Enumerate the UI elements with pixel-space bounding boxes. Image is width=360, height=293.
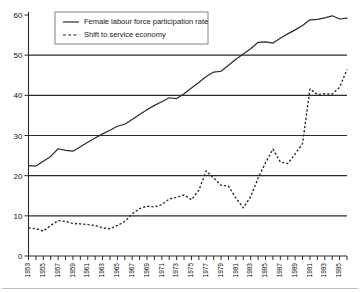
x-tick-label-1959: 1959 — [69, 263, 76, 278]
axes — [25, 12, 348, 256]
x-tick-label-1977: 1977 — [202, 263, 209, 278]
x-tick-label-1955: 1955 — [39, 263, 46, 278]
x-tick-label-1995: 1995 — [335, 263, 342, 278]
y-tick-label-20: 20 — [14, 172, 23, 181]
x-tick-label-1957: 1957 — [54, 263, 61, 278]
x-tick-label-1985: 1985 — [261, 263, 268, 278]
chart-legend: Female labour force participation rateSh… — [55, 12, 208, 44]
x-tick-label-1979: 1979 — [217, 263, 224, 278]
chart-container: 0102030405060 19531955195719591961196319… — [0, 0, 360, 293]
x-tick-label-1973: 1973 — [172, 263, 179, 278]
data-series — [29, 16, 348, 231]
x-axis-tick-labels: 1953195519571959196119631965196719691971… — [24, 263, 342, 278]
x-tick-label-1987: 1987 — [276, 263, 283, 278]
y-tick-label-30: 30 — [14, 132, 23, 141]
series-line-service-economy — [29, 70, 348, 231]
x-tick-label-1965: 1965 — [113, 263, 120, 278]
x-tick-label-1953: 1953 — [24, 263, 31, 278]
y-axis-tick-labels: 0102030405060 — [14, 11, 23, 261]
x-tick-label-1963: 1963 — [98, 263, 105, 278]
x-tick-label-1989: 1989 — [291, 263, 298, 278]
y-tick-label-50: 50 — [14, 51, 23, 60]
x-tick-label-1961: 1961 — [83, 263, 90, 278]
x-tick-label-1967: 1967 — [128, 263, 135, 278]
x-tick-label-1971: 1971 — [158, 263, 165, 278]
legend-label-1: Shift to service economy — [84, 30, 166, 39]
y-tick-label-40: 40 — [14, 91, 23, 100]
x-tick-label-1983: 1983 — [246, 263, 253, 278]
x-axis-tick-marks — [29, 256, 348, 260]
y-tick-label-0: 0 — [18, 252, 23, 261]
y-tick-label-60: 60 — [14, 11, 23, 20]
legend-label-0: Female labour force participation rate — [84, 17, 208, 26]
x-tick-label-1993: 1993 — [320, 263, 327, 278]
x-tick-label-1981: 1981 — [232, 263, 239, 278]
x-tick-label-1991: 1991 — [306, 263, 313, 278]
y-tick-label-10: 10 — [14, 212, 23, 221]
gridlines — [29, 55, 348, 216]
x-tick-label-1975: 1975 — [187, 263, 194, 278]
line-chart: 0102030405060 19531955195719591961196319… — [0, 0, 360, 293]
x-tick-label-1969: 1969 — [143, 263, 150, 278]
